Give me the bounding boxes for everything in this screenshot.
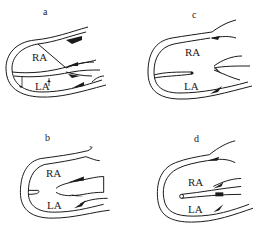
panel-a: a RA LA — [0, 0, 132, 117]
panel-label-a: a — [43, 6, 47, 17]
label-ra-b: RA — [46, 167, 61, 179]
panel-d: d RA LA — [132, 117, 264, 234]
panel-c: c RA LA — [132, 0, 264, 117]
heart-diagram-b — [0, 117, 132, 234]
label-ra-c: RA — [185, 46, 200, 58]
label-ra-d: RA — [188, 176, 203, 188]
panel-label-b: b — [45, 132, 50, 143]
label-la-b: LA — [47, 199, 62, 211]
heart-diagram-c — [132, 0, 264, 117]
label-ra-a: RA — [32, 51, 47, 63]
label-la-c: LA — [184, 80, 199, 92]
panel-label-d: d — [194, 133, 199, 144]
label-la-d: LA — [188, 203, 203, 215]
panel-b: b RA LA — [0, 117, 132, 234]
panel-label-c: c — [192, 9, 196, 20]
heart-diagram-a — [0, 0, 132, 117]
label-la-a: LA — [35, 80, 50, 92]
